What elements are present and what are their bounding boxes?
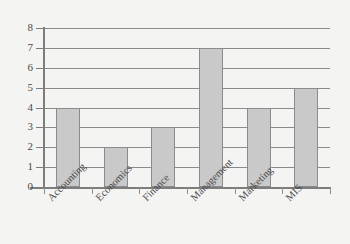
y-tick-label-wrap: 8 (16, 22, 33, 33)
x-tick (187, 188, 188, 194)
plot-area (44, 28, 330, 187)
gridline-6 (44, 68, 330, 69)
y-tick-label: 2 (16, 141, 33, 152)
y-tick-0 (36, 187, 43, 188)
y-tick-label: 5 (16, 82, 33, 93)
y-tick-6 (36, 68, 43, 69)
y-tick-label-wrap: 6 (16, 62, 33, 73)
y-tick-label-wrap: 7 (16, 42, 33, 53)
y-tick-label: 7 (16, 42, 33, 53)
y-axis (43, 27, 45, 188)
bar-chart: 012345678 AccountingEconomicsFinanceMana… (0, 0, 350, 244)
x-tick (282, 188, 283, 194)
x-tick (92, 188, 93, 194)
gridline-5 (44, 88, 330, 89)
y-tick-label: 8 (16, 22, 33, 33)
gridline-3 (44, 127, 330, 128)
gridline-7 (44, 48, 330, 49)
y-tick-label-wrap: 5 (16, 82, 33, 93)
y-tick-4 (36, 108, 43, 109)
gridline-8 (44, 28, 330, 29)
gridline-4 (44, 108, 330, 109)
y-tick-label: 6 (16, 62, 33, 73)
y-tick-label: 0 (16, 181, 33, 192)
bar (294, 88, 318, 187)
y-tick-5 (36, 88, 43, 89)
y-tick-label-wrap: 4 (16, 102, 33, 113)
x-tick (139, 188, 140, 194)
y-tick-1 (36, 167, 43, 168)
y-tick-label-wrap: 3 (16, 121, 33, 132)
gridline-2 (44, 147, 330, 148)
y-tick-label-wrap: 1 (16, 161, 33, 172)
y-tick-7 (36, 48, 43, 49)
y-tick-label-wrap: 2 (16, 141, 33, 152)
y-tick-label: 3 (16, 121, 33, 132)
y-tick-2 (36, 147, 43, 148)
x-axis (30, 187, 331, 189)
y-tick-label: 1 (16, 161, 33, 172)
y-tick-8 (36, 28, 43, 29)
x-tick (330, 188, 331, 194)
y-tick-label-wrap: 0 (16, 181, 33, 192)
y-tick-3 (36, 127, 43, 128)
x-tick (235, 188, 236, 194)
y-tick-label: 4 (16, 102, 33, 113)
x-tick (44, 188, 45, 194)
